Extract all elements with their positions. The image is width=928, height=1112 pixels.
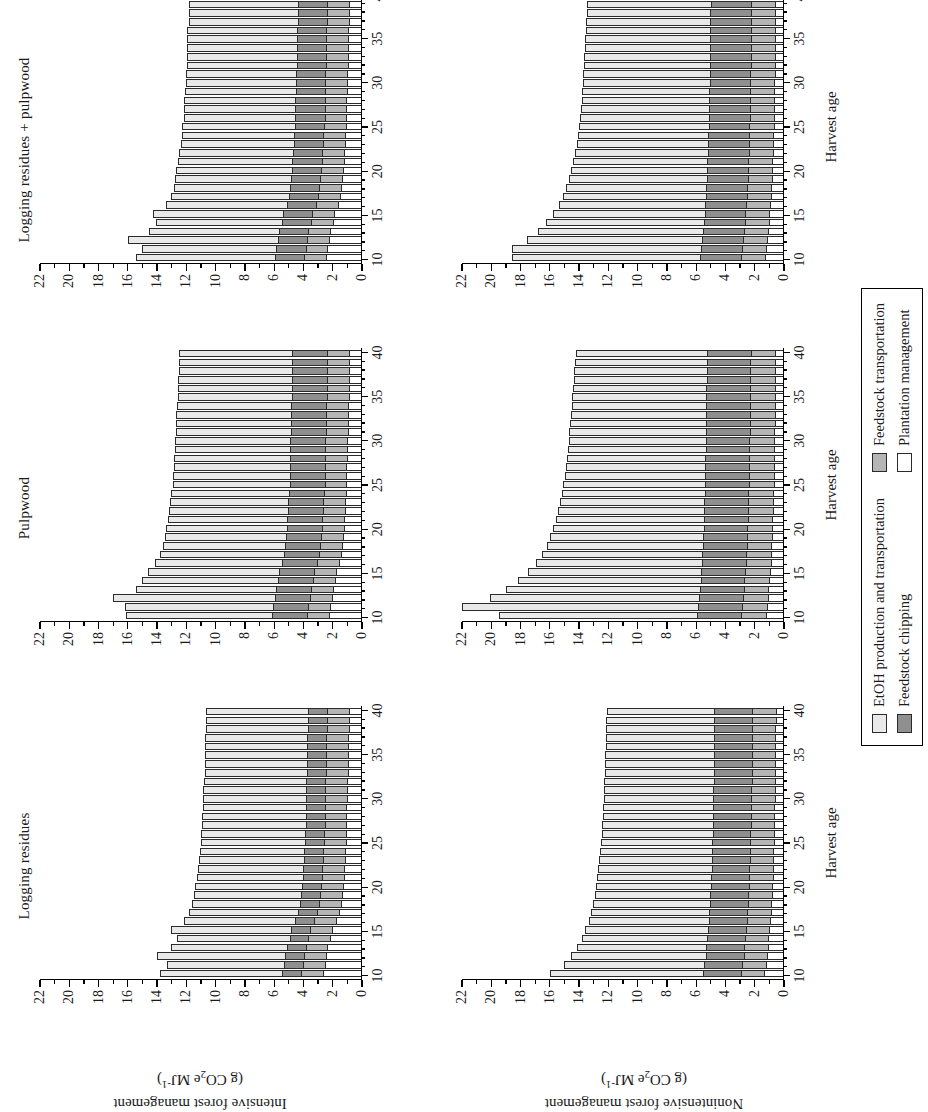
stacked-bar[interactable] xyxy=(40,586,361,594)
stacked-bar[interactable] xyxy=(40,123,361,131)
stacked-bar[interactable] xyxy=(40,149,361,157)
legend-item-1[interactable]: Feedstock chipping xyxy=(896,498,913,733)
stacked-bar[interactable] xyxy=(40,874,361,882)
stacked-bar[interactable] xyxy=(462,359,783,367)
stacked-bar[interactable] xyxy=(462,97,783,105)
stacked-bar[interactable] xyxy=(40,36,361,44)
stacked-bar[interactable] xyxy=(40,411,361,419)
stacked-bar[interactable] xyxy=(40,760,361,768)
stacked-bar[interactable] xyxy=(40,507,361,515)
stacked-bar[interactable] xyxy=(462,839,783,847)
stacked-bar[interactable] xyxy=(462,44,783,52)
stacked-bar[interactable] xyxy=(462,455,783,463)
stacked-bar[interactable] xyxy=(40,79,361,87)
stacked-bar[interactable] xyxy=(40,594,361,602)
stacked-bar[interactable] xyxy=(462,79,783,87)
stacked-bar[interactable] xyxy=(40,498,361,506)
stacked-bar[interactable] xyxy=(40,769,361,777)
stacked-bar[interactable] xyxy=(462,88,783,96)
stacked-bar[interactable] xyxy=(462,394,783,402)
stacked-bar[interactable] xyxy=(462,245,783,253)
stacked-bar[interactable] xyxy=(462,804,783,812)
stacked-bar[interactable] xyxy=(40,228,361,236)
stacked-bar[interactable] xyxy=(40,795,361,803)
stacked-bar[interactable] xyxy=(462,577,783,585)
stacked-bar[interactable] xyxy=(40,490,361,498)
stacked-bar[interactable] xyxy=(462,961,783,969)
stacked-bar[interactable] xyxy=(462,36,783,44)
stacked-bar[interactable] xyxy=(40,62,361,70)
stacked-bar[interactable] xyxy=(40,865,361,873)
stacked-bar[interactable] xyxy=(462,813,783,821)
stacked-bar[interactable] xyxy=(40,446,361,454)
stacked-bar[interactable] xyxy=(462,734,783,742)
stacked-bar[interactable] xyxy=(462,105,783,113)
stacked-bar[interactable] xyxy=(40,193,361,201)
stacked-bar[interactable] xyxy=(462,481,783,489)
stacked-bar[interactable] xyxy=(40,367,361,375)
stacked-bar[interactable] xyxy=(462,385,783,393)
stacked-bar[interactable] xyxy=(462,446,783,454)
stacked-bar[interactable] xyxy=(40,437,361,445)
stacked-bar[interactable] xyxy=(462,926,783,934)
stacked-bar[interactable] xyxy=(462,114,783,122)
stacked-bar[interactable] xyxy=(40,909,361,917)
stacked-bar[interactable] xyxy=(40,105,361,113)
stacked-bar[interactable] xyxy=(40,717,361,725)
stacked-bar[interactable] xyxy=(462,132,783,140)
stacked-bar[interactable] xyxy=(40,201,361,209)
stacked-bar[interactable] xyxy=(40,551,361,559)
stacked-bar[interactable] xyxy=(40,612,361,620)
stacked-bar[interactable] xyxy=(40,114,361,122)
stacked-bar[interactable] xyxy=(462,952,783,960)
stacked-bar[interactable] xyxy=(40,385,361,393)
stacked-bar[interactable] xyxy=(462,219,783,227)
stacked-bar[interactable] xyxy=(40,167,361,175)
stacked-bar[interactable] xyxy=(40,236,361,244)
stacked-bar[interactable] xyxy=(462,533,783,541)
stacked-bar[interactable] xyxy=(462,62,783,70)
stacked-bar[interactable] xyxy=(40,428,361,436)
stacked-bar[interactable] xyxy=(40,970,361,978)
stacked-bar[interactable] xyxy=(462,778,783,786)
stacked-bar[interactable] xyxy=(462,367,783,375)
stacked-bar[interactable] xyxy=(462,254,783,262)
stacked-bar[interactable] xyxy=(40,88,361,96)
stacked-bar[interactable] xyxy=(40,944,361,952)
stacked-bar[interactable] xyxy=(462,9,783,17)
stacked-bar[interactable] xyxy=(462,717,783,725)
stacked-bar[interactable] xyxy=(40,804,361,812)
stacked-bar[interactable] xyxy=(462,525,783,533)
stacked-bar[interactable] xyxy=(40,725,361,733)
stacked-bar[interactable] xyxy=(40,734,361,742)
legend-item-0[interactable]: EtOH production and transportation xyxy=(871,498,888,733)
stacked-bar[interactable] xyxy=(40,420,361,428)
stacked-bar[interactable] xyxy=(462,149,783,157)
stacked-bar[interactable] xyxy=(462,891,783,899)
stacked-bar[interactable] xyxy=(462,516,783,524)
stacked-bar[interactable] xyxy=(40,455,361,463)
stacked-bar[interactable] xyxy=(40,175,361,183)
stacked-bar[interactable] xyxy=(40,926,361,934)
stacked-bar[interactable] xyxy=(462,1,783,9)
stacked-bar[interactable] xyxy=(462,402,783,410)
stacked-bar[interactable] xyxy=(40,900,361,908)
stacked-bar[interactable] xyxy=(40,53,361,61)
stacked-bar[interactable] xyxy=(462,559,783,567)
stacked-bar[interactable] xyxy=(40,350,361,358)
stacked-bar[interactable] xyxy=(462,795,783,803)
stacked-bar[interactable] xyxy=(462,917,783,925)
stacked-bar[interactable] xyxy=(40,577,361,585)
stacked-bar[interactable] xyxy=(462,53,783,61)
stacked-bar[interactable] xyxy=(40,132,361,140)
stacked-bar[interactable] xyxy=(40,961,361,969)
stacked-bar[interactable] xyxy=(40,70,361,78)
stacked-bar[interactable] xyxy=(40,533,361,541)
stacked-bar[interactable] xyxy=(40,254,361,262)
stacked-bar[interactable] xyxy=(462,350,783,358)
stacked-bar[interactable] xyxy=(40,883,361,891)
stacked-bar[interactable] xyxy=(462,236,783,244)
stacked-bar[interactable] xyxy=(462,27,783,35)
stacked-bar[interactable] xyxy=(40,184,361,192)
stacked-bar[interactable] xyxy=(40,821,361,829)
